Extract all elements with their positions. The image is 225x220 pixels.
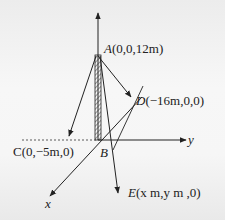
label-e-coords: (x m,y m ,0) [136, 185, 201, 200]
label-a: A(0,0,12m) [104, 42, 163, 55]
arrow-a-to-c [69, 56, 96, 136]
label-a-coords: (0,0,12m) [112, 41, 163, 56]
label-d-name: D [136, 93, 145, 108]
label-e: E(x m,y m ,0) [128, 186, 201, 199]
diagram-canvas: A(0,0,12m) D(−16m,0,0) C(0,−5m,0) B y x … [0, 0, 225, 220]
label-e-name: E [128, 185, 136, 200]
pole [95, 55, 101, 140]
label-d: D(−16m,0,0) [136, 94, 204, 107]
label-b: B [100, 146, 108, 159]
label-y-axis: y [188, 133, 194, 146]
label-c-coords: (0,−5m,0) [22, 144, 74, 159]
label-d-coords: (−16m,0,0) [145, 93, 204, 108]
label-a-name: A [104, 41, 112, 56]
arrow-a-to-e [100, 56, 118, 193]
label-c-name: C [13, 144, 22, 159]
label-x-axis: x [45, 197, 51, 210]
label-c: C(0,−5m,0) [13, 145, 74, 158]
